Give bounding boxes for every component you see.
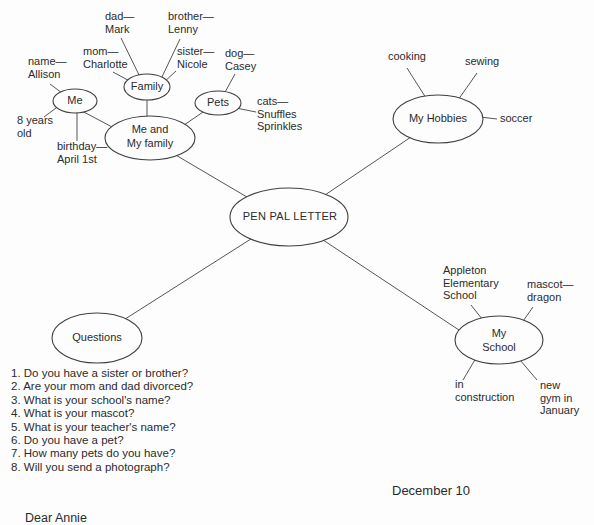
my-school-node-label: My School (482, 327, 516, 354)
question-item: 7. How many pets do you have? (11, 447, 193, 460)
questions-list: 1. Do you have a sister or brother? 2. A… (11, 367, 193, 474)
question-item: 8. Will you send a photograph? (11, 461, 193, 474)
pets-node-label: Pets (207, 96, 229, 110)
cooking-label: cooking (388, 50, 426, 63)
connector-line (458, 73, 477, 100)
question-item: 6. Do you have a pet? (11, 434, 193, 447)
questions-node-label: Questions (72, 331, 122, 345)
construction-label: in construction (455, 378, 514, 403)
connector-line (520, 360, 537, 380)
cats-label: cats— Snuffles Sprinkles (257, 95, 302, 133)
sewing-label: sewing (465, 55, 499, 68)
question-item: 5. What is your teacher's name? (11, 421, 193, 434)
connector-line (224, 74, 235, 94)
letter-salutation: Dear Annie (25, 511, 87, 525)
my-hobbies-node-label: My Hobbies (409, 112, 467, 126)
question-item: 4. What is your mascot? (11, 407, 193, 420)
connector-line (174, 154, 252, 200)
me-and-family-node-label: Me and My family (127, 123, 173, 150)
mom-label: mom— Charlotte (83, 45, 128, 70)
connector-line (80, 110, 114, 128)
dad-label: dad— Mark (105, 10, 134, 35)
connector-line (463, 358, 476, 380)
letter-date: December 10 (392, 483, 470, 498)
question-item: 3. What is your school's name? (11, 394, 193, 407)
birthday-label: birthday— April 1st (57, 140, 107, 165)
question-item: 2. Are your mom and dad divorced? (11, 380, 193, 393)
sister-label: sister— Nicole (177, 45, 214, 70)
dog-label: dog— Casey (225, 47, 256, 72)
school-name-label: Appleton Elementary School (443, 264, 499, 302)
question-item: 1. Do you have a sister or brother? (11, 367, 193, 380)
family-node-label: Family (131, 80, 163, 94)
connector-line (407, 68, 426, 98)
brother-label: brother— Lenny (168, 10, 214, 35)
connector-line (322, 135, 414, 197)
age-label: 8 years old (17, 114, 53, 139)
pen-pal-letter-node-label: PEN PAL LETTER (243, 210, 338, 224)
name-allison-label: name— Allison (28, 55, 67, 80)
gym-label: new gym in January (540, 379, 579, 417)
soccer-label: soccer (500, 112, 532, 125)
mascot-label: mascot— dragon (527, 278, 573, 303)
connector-line (122, 237, 254, 321)
me-node-label: Me (67, 94, 82, 108)
